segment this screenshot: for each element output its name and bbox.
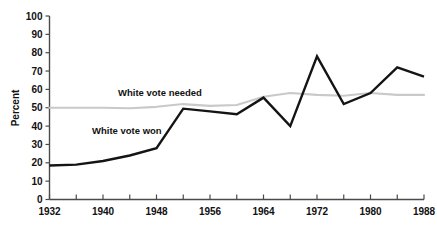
y-axis-tick-label: 30 — [31, 139, 43, 150]
y-axis-tick-label: 40 — [31, 121, 43, 132]
y-axis-tick-label: 60 — [31, 84, 43, 95]
chart-background — [0, 0, 437, 230]
x-axis-tick-label: 1932 — [38, 206, 61, 217]
y-axis-tick-label: 20 — [31, 157, 43, 168]
x-axis-tick-label: 1940 — [92, 206, 115, 217]
y-axis-tick-label: 50 — [31, 102, 43, 113]
chart-container: 0102030405060708090100 Percent 193219401… — [0, 0, 437, 230]
y-axis-tick-label: 70 — [31, 66, 43, 77]
x-axis-tick-label: 1988 — [413, 206, 436, 217]
y-axis-tick-label: 0 — [37, 194, 43, 205]
y-axis-tick-label: 80 — [31, 47, 43, 58]
annotation-white-vote-won: White vote won — [92, 125, 162, 136]
x-axis-tick-label: 1956 — [199, 206, 222, 217]
white-vote-line-chart: 0102030405060708090100 Percent 193219401… — [0, 0, 437, 230]
x-axis-tick-label: 1964 — [252, 206, 275, 217]
y-axis-tick-label: 100 — [26, 11, 43, 22]
x-axis-tick-label: 1948 — [145, 206, 168, 217]
y-axis-tick-label: 10 — [31, 176, 43, 187]
y-axis-title: Percent — [10, 89, 21, 126]
annotation-white-vote-needed: White vote needed — [118, 87, 202, 98]
y-axis-tick-label: 90 — [31, 29, 43, 40]
x-axis-tick-label: 1972 — [306, 206, 329, 217]
x-axis-tick-label: 1980 — [359, 206, 382, 217]
